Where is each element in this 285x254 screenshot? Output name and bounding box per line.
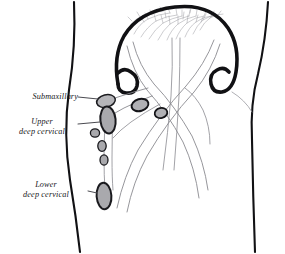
label-lower-deep-cervical-line2: deep cervical [6,190,86,200]
label-lower-deep-cervical-line1: Lower [35,180,57,189]
node-upper-deep-cervical-c [100,155,108,165]
label-lower-deep-cervical: Lower deep cervical [6,180,86,200]
label-submaxillary: Submaxillary [6,92,78,102]
label-submaxillary-line1: Submaxillary [33,92,78,101]
label-upper-deep-cervical-line1: Upper [31,117,53,126]
lymphatics-figure: Submaxillary Upper deep cervical Lower d… [0,0,285,254]
node-upper-deep-cervical-a [90,129,99,137]
node-upper-deep-cervical-b [98,141,106,152]
label-upper-deep-cervical-line2: deep cervical [6,127,78,137]
label-upper-deep-cervical: Upper deep cervical [6,117,78,137]
